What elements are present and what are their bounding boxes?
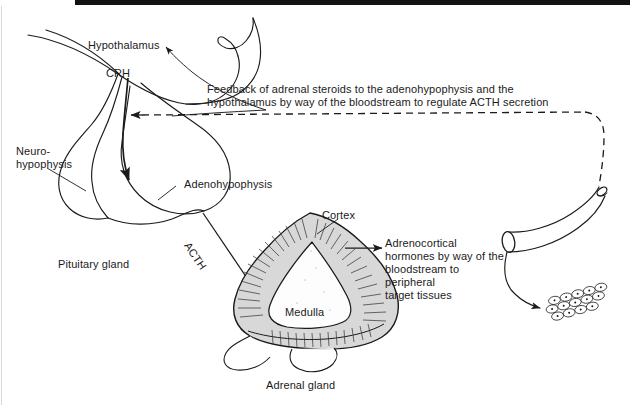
label-crh: CRH bbox=[106, 67, 130, 81]
label-adenohypophysis: Adenohypophysis bbox=[184, 178, 272, 192]
annotation-hormones-line1: Adrenocortical bbox=[385, 237, 457, 251]
pituitary-gland-structure bbox=[59, 74, 231, 224]
annotation-hormones-line5: target tissues bbox=[385, 289, 452, 303]
crh-arrow bbox=[123, 78, 129, 180]
label-neurohypophysis-line1: Neuro- bbox=[16, 145, 50, 159]
adrenal-gland-structure bbox=[224, 213, 398, 372]
annotation-feedback-line1: Feedback of adrenal steroids to the aden… bbox=[207, 83, 514, 97]
label-neurohypophysis-line2: hypophysis bbox=[16, 158, 72, 172]
label-pituitary-gland: Pituitary gland bbox=[58, 258, 129, 272]
label-medulla: Medulla bbox=[285, 306, 324, 320]
target-tissue-cells bbox=[543, 282, 611, 322]
annotation-hormones-line3: bloodstream to bbox=[385, 263, 459, 277]
annotation-feedback-line2: hypothalamus by way of the bloodstream t… bbox=[207, 96, 549, 110]
annotation-hormones-line4: peripheral bbox=[385, 276, 435, 290]
hpa-axis-diagram bbox=[0, 0, 630, 405]
label-hypothalamus: Hypothalamus bbox=[88, 39, 160, 53]
label-cortex: Cortex bbox=[322, 209, 355, 223]
feedback-pathway bbox=[131, 47, 604, 186]
annotation-hormones-line2: hormones by way of the bbox=[385, 250, 504, 264]
label-adrenal-gland: Adrenal gland bbox=[266, 379, 335, 393]
